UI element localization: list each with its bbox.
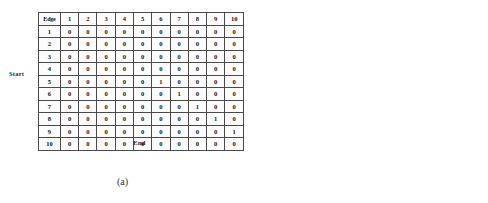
end-axis-label-a: End — [133, 139, 145, 147]
matrix-column-header-1: 1 — [60, 13, 78, 26]
matrix-cell-8-9: 1 — [207, 113, 225, 126]
matrix-row: 10000000000 — [39, 25, 244, 38]
matrix-column-header-10: 10 — [225, 13, 244, 26]
panel-b: Start Edge123456789101110000000000020000… — [244, 0, 488, 203]
adjacency-matrix-a: Edge123456789101000000000020000000000300… — [38, 12, 244, 151]
matrix-cell-2-4: 0 — [115, 38, 133, 51]
matrix-cell-2-3: 0 — [97, 38, 115, 51]
matrix-cell-2-5: 0 — [133, 38, 151, 51]
matrix-cell-5-3: 0 — [97, 75, 115, 88]
matrix-cell-9-1: 0 — [60, 125, 78, 138]
matrix-row: 70000000100 — [39, 100, 244, 113]
matrix-cell-8-7: 0 — [170, 113, 188, 126]
matrix-cell-6-9: 0 — [207, 88, 225, 101]
matrix-column-header-3: 3 — [97, 13, 115, 26]
matrix-cell-9-6: 0 — [152, 125, 170, 138]
matrix-cell-8-6: 0 — [152, 113, 170, 126]
matrix-cell-9-9: 0 — [207, 125, 225, 138]
matrix-column-header-7: 7 — [170, 13, 188, 26]
matrix-cell-10-6: 0 — [152, 138, 170, 151]
matrix-cell-3-6: 0 — [152, 50, 170, 63]
matrix-row: 60000001000 — [39, 88, 244, 101]
matrix-cell-10-4: 0 — [115, 138, 133, 151]
matrix-cell-9-8: 0 — [188, 125, 206, 138]
matrix-cell-7-4: 0 — [115, 100, 133, 113]
matrix-cell-2-6: 0 — [152, 38, 170, 51]
matrix-cell-3-10: 0 — [225, 50, 244, 63]
matrix-cell-2-9: 0 — [207, 38, 225, 51]
matrix-cell-9-4: 0 — [115, 125, 133, 138]
matrix-cell-9-3: 0 — [97, 125, 115, 138]
matrix-cell-5-10: 0 — [225, 75, 244, 88]
matrix-cell-3-8: 0 — [188, 50, 206, 63]
matrix-header-row: Edge12345678910 — [39, 13, 244, 26]
matrix-cell-1-9: 0 — [207, 25, 225, 38]
matrix-cell-10-3: 0 — [97, 138, 115, 151]
matrix-cell-5-9: 0 — [207, 75, 225, 88]
matrix-cell-3-4: 0 — [115, 50, 133, 63]
matrix-cell-8-3: 0 — [97, 113, 115, 126]
matrix-row-header-5: 5 — [39, 75, 61, 88]
matrix-cell-1-5: 0 — [133, 25, 151, 38]
matrix-cell-7-3: 0 — [97, 100, 115, 113]
matrix-cell-10-9: 0 — [207, 138, 225, 151]
matrix-cell-2-8: 0 — [188, 38, 206, 51]
matrix-cell-5-8: 0 — [188, 75, 206, 88]
matrix-cell-3-1: 0 — [60, 50, 78, 63]
matrix-cell-6-3: 0 — [97, 88, 115, 101]
matrix-cell-6-1: 0 — [60, 88, 78, 101]
matrix-cell-10-10: 0 — [225, 138, 244, 151]
matrix-cell-1-10: 0 — [225, 25, 244, 38]
matrix-cell-5-4: 0 — [115, 75, 133, 88]
matrix-cell-4-3: 0 — [97, 63, 115, 76]
matrix-row: 20000000000 — [39, 38, 244, 51]
matrix-cell-1-8: 0 — [188, 25, 206, 38]
matrix-cell-4-2: 0 — [79, 63, 97, 76]
matrix-row: 40000000000 — [39, 63, 244, 76]
matrix-cell-6-8: 0 — [188, 88, 206, 101]
matrix-row-header-6: 6 — [39, 88, 61, 101]
matrix-row-header-1: 1 — [39, 25, 61, 38]
matrix-cell-8-5: 0 — [133, 113, 151, 126]
matrix-cell-8-8: 0 — [188, 113, 206, 126]
matrix-column-header-5: 5 — [133, 13, 151, 26]
matrix-row: 30000000000 — [39, 50, 244, 63]
matrix-cell-1-2: 0 — [79, 25, 97, 38]
matrix-cell-10-8: 0 — [188, 138, 206, 151]
matrix-cell-4-8: 0 — [188, 63, 206, 76]
matrix-cell-2-1: 0 — [60, 38, 78, 51]
matrix-cell-1-3: 0 — [97, 25, 115, 38]
panel-a: Start Edge123456789101000000000020000000… — [0, 0, 244, 203]
matrix-cell-1-6: 0 — [152, 25, 170, 38]
matrix-cell-4-4: 0 — [115, 63, 133, 76]
matrix-cell-2-10: 0 — [225, 38, 244, 51]
figure-caption-a: (a) — [117, 176, 128, 187]
matrix-cell-5-5: 0 — [133, 75, 151, 88]
matrix-cell-3-9: 0 — [207, 50, 225, 63]
matrix-cell-7-2: 0 — [79, 100, 97, 113]
matrix-cell-8-2: 0 — [79, 113, 97, 126]
matrix-cell-9-7: 0 — [170, 125, 188, 138]
matrix-cell-7-10: 0 — [225, 100, 244, 113]
matrix-cell-7-9: 0 — [207, 100, 225, 113]
matrix-row-header-4: 4 — [39, 63, 61, 76]
matrix-cell-7-5: 0 — [133, 100, 151, 113]
matrix-row: 90000000001 — [39, 125, 244, 138]
matrix-cell-4-5: 0 — [133, 63, 151, 76]
matrix-cell-10-1: 0 — [60, 138, 78, 151]
matrix-cell-5-6: 1 — [152, 75, 170, 88]
matrix-cell-2-2: 0 — [79, 38, 97, 51]
matrix-cell-5-1: 0 — [60, 75, 78, 88]
matrix-cell-3-7: 0 — [170, 50, 188, 63]
matrix-row-header-7: 7 — [39, 100, 61, 113]
matrix-cell-4-7: 0 — [170, 63, 188, 76]
matrix-column-header-6: 6 — [152, 13, 170, 26]
matrix-cell-6-5: 0 — [133, 88, 151, 101]
matrix-cell-7-7: 0 — [170, 100, 188, 113]
matrix-cell-10-7: 0 — [170, 138, 188, 151]
matrix-cell-4-10: 0 — [225, 63, 244, 76]
start-axis-label-a: Start — [9, 70, 24, 77]
matrix-column-header-2: 2 — [79, 13, 97, 26]
matrix-cell-4-1: 0 — [60, 63, 78, 76]
matrix-cell-2-7: 0 — [170, 38, 188, 51]
